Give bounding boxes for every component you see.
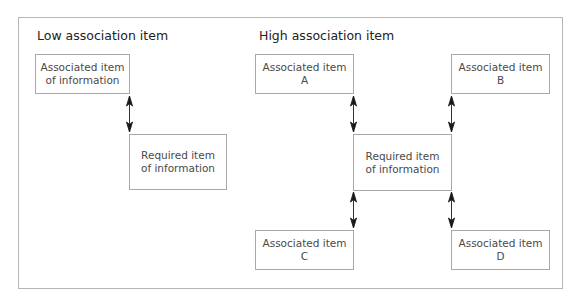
double-arrow-icon [351, 192, 357, 228]
double-arrow-icon [449, 192, 455, 228]
double-arrow-icon [449, 96, 455, 132]
double-arrow-icon [351, 96, 357, 132]
connector-arrows [0, 0, 574, 306]
double-arrow-icon [127, 96, 133, 132]
